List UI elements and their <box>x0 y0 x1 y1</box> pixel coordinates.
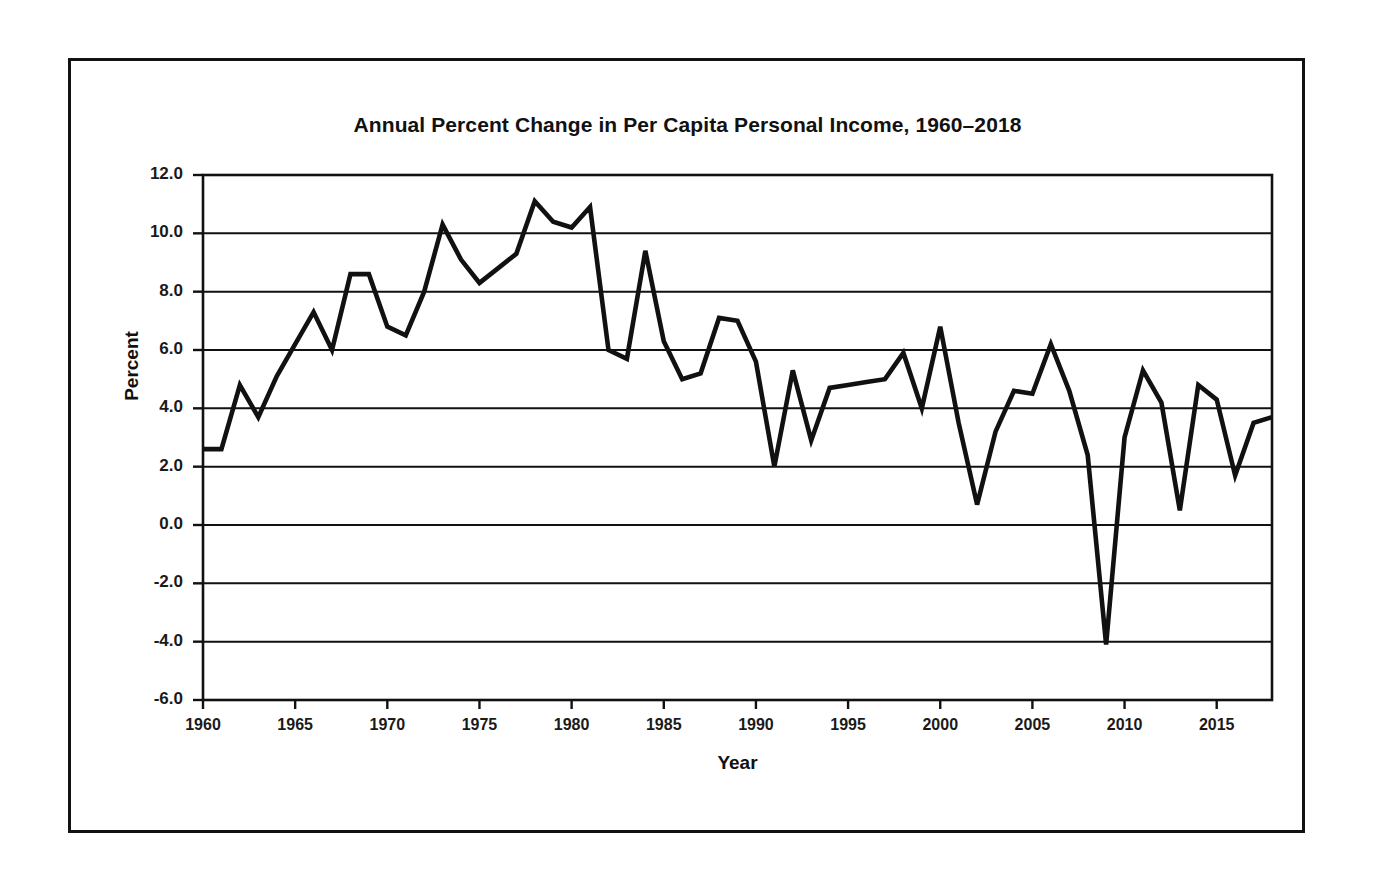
plot-border <box>203 175 1272 700</box>
x-tick-label: 2005 <box>997 716 1067 734</box>
y-tick-label: -2.0 <box>121 572 183 592</box>
x-tick-label: 1960 <box>168 716 238 734</box>
y-tick-label: 6.0 <box>121 339 183 359</box>
y-tick-label: 4.0 <box>121 397 183 417</box>
x-tick-label: 1980 <box>537 716 607 734</box>
y-tick-label: 8.0 <box>121 281 183 301</box>
x-tick-label: 2000 <box>905 716 975 734</box>
x-tick-label: 2015 <box>1182 716 1252 734</box>
x-tick-label: 1990 <box>721 716 791 734</box>
chart-page: Annual Percent Change in Per Capita Pers… <box>0 0 1375 887</box>
plot-area <box>0 0 1375 887</box>
data-series-line <box>203 201 1272 644</box>
x-tick-label: 2010 <box>1090 716 1160 734</box>
y-tick-label: -4.0 <box>121 631 183 651</box>
x-tick-label: 1975 <box>444 716 514 734</box>
y-tick-label: 10.0 <box>121 222 183 242</box>
x-tick-label: 1965 <box>260 716 330 734</box>
y-tick-label: -6.0 <box>121 689 183 709</box>
axis-ticks <box>193 175 1217 709</box>
y-tick-label: 12.0 <box>121 164 183 184</box>
x-tick-label: 1985 <box>629 716 699 734</box>
x-tick-label: 1995 <box>813 716 883 734</box>
x-tick-label: 1970 <box>352 716 422 734</box>
y-tick-label: 0.0 <box>121 514 183 534</box>
y-tick-label: 2.0 <box>121 456 183 476</box>
